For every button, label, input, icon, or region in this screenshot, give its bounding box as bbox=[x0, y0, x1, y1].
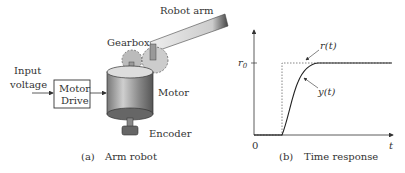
gearbox-label: Gearbox bbox=[107, 37, 150, 48]
caption-a-tag: (a) bbox=[81, 151, 95, 162]
robot-arm-label: Robot arm bbox=[160, 5, 214, 16]
encoder-disc bbox=[122, 126, 138, 135]
y-t-label: y(t) bbox=[317, 86, 336, 97]
r-t-label: r(t) bbox=[320, 40, 337, 51]
motor-label: Motor bbox=[158, 87, 189, 98]
input-label-line1: Input bbox=[14, 65, 41, 76]
caption-b: Time response bbox=[304, 151, 378, 162]
r-t-pointer bbox=[306, 50, 319, 60]
t-axis-label: t bbox=[389, 140, 394, 151]
figure-canvas: Input voltage Motor Drive Robot arm Gear… bbox=[0, 0, 405, 173]
arm-robot-diagram: Input voltage Motor Drive Robot arm Gear… bbox=[9, 5, 228, 162]
time-response-chart: r0 r(t) y(t) 0 t (b) Time response bbox=[238, 30, 394, 162]
reference-r-t bbox=[254, 63, 392, 135]
caption-a: Arm robot bbox=[104, 151, 157, 162]
caption-b-tag: (b) bbox=[279, 151, 293, 162]
motor-drive-label-line1: Motor bbox=[59, 83, 90, 94]
encoder-label: Encoder bbox=[149, 128, 192, 139]
origin-label: 0 bbox=[252, 140, 258, 151]
motor-top bbox=[107, 66, 153, 78]
r0-label: r0 bbox=[238, 57, 248, 70]
input-label-line2: voltage bbox=[9, 79, 47, 90]
output-y-t bbox=[254, 63, 392, 135]
encoder-shaft bbox=[127, 118, 133, 127]
motor-drive-label-line2: Drive bbox=[61, 95, 89, 106]
y-t-pointer bbox=[304, 78, 318, 88]
arm-shaft bbox=[150, 44, 156, 60]
robot-arm-shape bbox=[150, 14, 228, 52]
